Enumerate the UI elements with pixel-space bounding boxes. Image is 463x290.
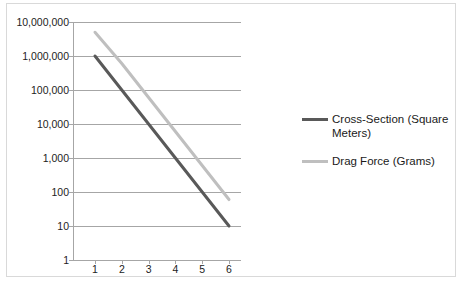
y-axis-tick-label: 1,000 <box>43 152 69 164</box>
x-axis-tick-label: 1 <box>92 263 98 275</box>
y-tick-mark <box>69 22 73 23</box>
chart-legend: Cross-Section (Square Meters)Drag Force … <box>302 112 452 182</box>
x-axis-tick-label: 6 <box>226 263 232 275</box>
y-tick-mark <box>69 158 73 159</box>
gridline <box>73 158 241 159</box>
gridline <box>73 192 241 193</box>
legend-label: Cross-Section (Square Meters) <box>332 112 452 140</box>
series-line <box>95 32 229 199</box>
x-axis-tick-label: 3 <box>146 263 152 275</box>
legend-color-swatch <box>302 160 328 163</box>
gridline <box>73 90 241 91</box>
gridline <box>73 56 241 57</box>
series-lines <box>73 22 241 260</box>
legend-item: Cross-Section (Square Meters) <box>302 112 452 140</box>
plot-area <box>73 22 241 260</box>
series-line <box>95 56 229 226</box>
x-axis-labels: 123456 <box>73 263 241 279</box>
y-axis-tick-label: 100 <box>51 186 69 198</box>
y-tick-mark <box>69 124 73 125</box>
chart-frame: 1101001,00010,000100,0001,000,00010,000,… <box>6 3 456 277</box>
gridline <box>73 226 241 227</box>
y-axis-tick-label: 10,000 <box>37 118 69 130</box>
figure-caption <box>8 280 463 290</box>
x-axis-tick-label: 4 <box>172 263 178 275</box>
gridline <box>73 124 241 125</box>
y-tick-mark <box>69 192 73 193</box>
y-axis-tick-label: 10 <box>57 220 69 232</box>
legend-color-swatch <box>302 118 328 121</box>
gridline <box>73 22 241 23</box>
x-axis-tick-label: 5 <box>199 263 205 275</box>
y-axis-tick-label: 100,000 <box>31 84 69 96</box>
y-axis-labels: 1101001,00010,000100,0001,000,00010,000,… <box>7 22 69 260</box>
y-tick-mark <box>69 56 73 57</box>
legend-label: Drag Force (Grams) <box>332 154 435 168</box>
y-tick-mark <box>69 226 73 227</box>
y-axis-line <box>73 22 74 260</box>
legend-item: Drag Force (Grams) <box>302 154 452 168</box>
y-tick-mark <box>69 90 73 91</box>
y-axis-tick-label: 1,000,000 <box>22 50 69 62</box>
y-axis-tick-label: 10,000,000 <box>16 16 69 28</box>
x-axis-tick-label: 2 <box>119 263 125 275</box>
